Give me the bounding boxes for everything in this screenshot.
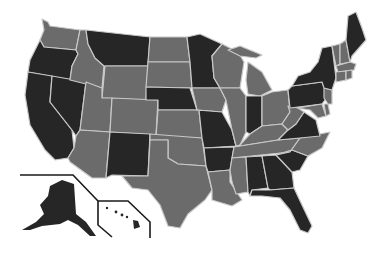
state-me[interactable] bbox=[346, 12, 366, 62]
state-ny[interactable] bbox=[292, 46, 336, 90]
state-sd[interactable] bbox=[146, 62, 192, 88]
state-ct[interactable] bbox=[336, 71, 346, 82]
state-ri[interactable] bbox=[346, 70, 352, 80]
state-mi[interactable] bbox=[246, 62, 272, 96]
state-nd[interactable] bbox=[148, 37, 190, 62]
state-ar[interactable] bbox=[204, 147, 234, 172]
state-az[interactable] bbox=[68, 130, 110, 178]
hawaii-inset-border bbox=[98, 201, 112, 237]
us-map bbox=[0, 0, 379, 253]
state-hi[interactable] bbox=[106, 207, 140, 229]
state-wy[interactable] bbox=[102, 66, 148, 100]
state-nm[interactable] bbox=[106, 132, 150, 178]
state-ia[interactable] bbox=[192, 88, 226, 112]
state-fl[interactable] bbox=[250, 188, 312, 233]
state-wa[interactable] bbox=[40, 19, 80, 50]
state-ks[interactable] bbox=[156, 110, 202, 138]
state-nj[interactable] bbox=[324, 88, 332, 104]
state-co[interactable] bbox=[110, 98, 158, 135]
